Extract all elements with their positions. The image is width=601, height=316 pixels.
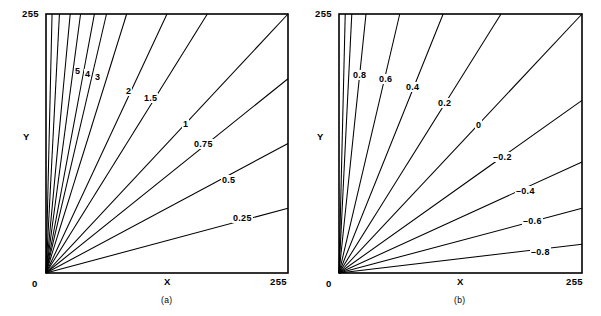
contour-value-label: 4: [84, 69, 91, 79]
contour-value-label: 0.8: [352, 70, 367, 80]
contour-line: [339, 14, 582, 273]
contour-line: [339, 14, 501, 273]
contour-value-label: 0.75: [193, 139, 214, 149]
contour-line: [46, 14, 59, 273]
panel-a: 255 Y 0 X 255 (a) 0.250.50.7511.52345: [0, 0, 300, 316]
contour-line: [46, 14, 288, 273]
contour-line: [46, 144, 288, 274]
contour-line: [339, 14, 352, 273]
figure-two-panel-contour-plots: 255 Y 0 X 255 (a) 0.250.50.7511.52345 25…: [0, 0, 601, 316]
panel-b-plot-area: [300, 0, 600, 316]
panel-a-y-axis-label: Y: [23, 132, 30, 142]
panel-b-x-max-tick-label: 255: [566, 277, 583, 287]
panel-b-origin-tick-label: 0: [326, 279, 332, 289]
panel-b-x-axis-label: X: [457, 277, 464, 287]
panel-a-caption: (a): [161, 295, 172, 305]
panel-b-y-max-tick-label: 255: [315, 9, 332, 19]
contour-value-label: 0.5: [221, 175, 236, 185]
panel-a-x-axis-label: X: [164, 277, 171, 287]
panel-b: 255 Y 0 X 255 (b) –0.8–0.6–0.4–0.200.20.…: [300, 0, 600, 316]
contour-value-label: 1.5: [143, 93, 158, 103]
contour-value-label: –0.4: [515, 186, 536, 196]
contour-value-label: 0.6: [378, 74, 393, 84]
contour-line: [339, 14, 345, 273]
panel-b-caption: (b): [454, 295, 465, 305]
contour-line: [339, 14, 366, 273]
contour-value-label: 0.25: [232, 213, 253, 223]
panel-b-y-axis-label: Y: [317, 132, 324, 142]
contour-line: [46, 14, 167, 273]
panel-a-plot-area: [0, 0, 300, 316]
contour-value-label: 0.2: [437, 98, 452, 108]
contour-value-label: –0.6: [522, 216, 543, 226]
panel-a-origin-tick-label: 0: [32, 279, 38, 289]
contour-value-label: –0.8: [530, 247, 551, 257]
panel-a-y-max-tick-label: 255: [22, 9, 39, 19]
panel-a-x-max-tick-label: 255: [270, 277, 287, 287]
contour-value-label: 5: [74, 66, 81, 76]
contour-value-label: 3: [94, 72, 101, 82]
contour-value-label: 0.4: [405, 82, 420, 92]
contour-value-label: –0.2: [492, 152, 513, 162]
contour-line: [46, 79, 288, 273]
contour-value-label: 1: [182, 119, 189, 129]
contour-value-label: 2: [125, 86, 132, 96]
contour-value-label: 0: [475, 120, 482, 130]
contour-line: [46, 14, 107, 273]
